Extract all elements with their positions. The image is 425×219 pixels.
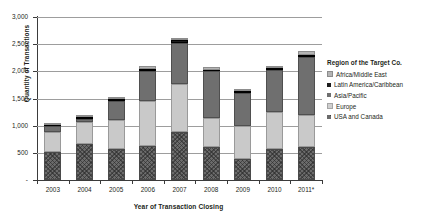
x-tick-mark — [290, 180, 291, 184]
stacked-bar-chart: Quantity of Transactions -5001,0001,5002… — [0, 0, 425, 219]
bar-2007 — [171, 17, 188, 180]
bar-2010 — [266, 17, 283, 180]
bar-2008 — [203, 17, 220, 180]
x-tick-mark — [132, 180, 133, 184]
y-tick-label: 1,000 — [0, 122, 28, 129]
x-tick-mark — [259, 180, 260, 184]
bar-segment — [76, 119, 93, 123]
x-tick-mark — [37, 180, 38, 184]
bar-segment — [108, 97, 125, 99]
bar-segment — [298, 55, 315, 57]
x-tick-mark — [322, 180, 323, 184]
legend-item-label: Latin America/Caribbean — [334, 81, 403, 88]
bar-2004 — [76, 17, 93, 180]
bar-segment — [76, 144, 93, 180]
legend-swatch-icon — [327, 115, 331, 119]
plot-area — [37, 17, 322, 180]
bar-segment — [139, 71, 156, 101]
bar-2003 — [44, 17, 61, 180]
legend-swatch-icon — [327, 103, 333, 109]
bar-2009 — [234, 17, 251, 180]
bar-segment — [44, 152, 61, 180]
bar-segment — [76, 122, 93, 144]
bar-segment — [139, 101, 156, 146]
legend-swatch-icon — [327, 83, 331, 87]
y-tick-label: 500 — [0, 149, 28, 156]
bar-segment — [203, 67, 220, 70]
chart-legend: Region of the Target Co. Africa/Middle E… — [327, 59, 425, 124]
bar-segment — [298, 51, 315, 54]
bar-segment — [266, 149, 283, 181]
bar-segment — [139, 146, 156, 180]
legend-item-label: Europe — [336, 103, 356, 110]
bar-segment — [234, 93, 251, 126]
legend-item-label: Africa/Middle East — [336, 71, 387, 78]
bar-segment — [234, 159, 251, 180]
bar-segment — [203, 147, 220, 180]
bar-segment — [171, 132, 188, 180]
legend-item[interactable]: Africa/Middle East — [327, 71, 425, 78]
x-tick-mark — [164, 180, 165, 184]
bar-segment — [203, 118, 220, 147]
x-tick-mark — [195, 180, 196, 184]
x-tick-label: 2011* — [286, 186, 326, 193]
bar-segment — [139, 66, 156, 68]
x-tick-mark — [227, 180, 228, 184]
legend-item-label: USA and Canada — [334, 113, 383, 120]
legend-item[interactable]: Europe — [327, 103, 425, 110]
bar-segment — [171, 38, 188, 40]
bar-segment — [108, 149, 125, 180]
bar-segment — [44, 123, 61, 125]
legend-title: Region of the Target Co. — [327, 59, 425, 66]
y-tick-label: 1,500 — [0, 95, 28, 102]
bar-segment — [266, 68, 283, 70]
bar-segment — [298, 147, 315, 180]
legend-item[interactable]: Latin America/Caribbean — [327, 81, 425, 88]
bar-segment — [139, 69, 156, 71]
bar-segment — [108, 120, 125, 149]
bar-segment — [266, 70, 283, 111]
y-tick-label: 2,500 — [0, 40, 28, 47]
y-tick-label: - — [0, 176, 28, 183]
bar-segment — [234, 126, 251, 160]
bar-segment — [298, 115, 315, 147]
bar-segment — [203, 71, 220, 118]
bar-segment — [298, 57, 315, 116]
bar-segment — [76, 115, 93, 117]
bar-2011 — [298, 17, 315, 180]
bar-segment — [44, 126, 61, 132]
legend-item-label: Asia/Pacific — [334, 92, 367, 99]
x-axis-title: Year of Transaction Closing — [36, 203, 321, 210]
x-tick-mark — [69, 180, 70, 184]
x-tick-mark — [100, 180, 101, 184]
legend-item[interactable]: Asia/Pacific — [327, 92, 425, 99]
y-tick-label: 3,000 — [0, 13, 28, 20]
bar-segment — [171, 43, 188, 84]
bar-2005 — [108, 17, 125, 180]
y-tick-label: 2,000 — [0, 67, 28, 74]
bar-segment — [44, 132, 61, 152]
bar-segment — [266, 66, 283, 68]
bar-segment — [171, 40, 188, 43]
legend-item[interactable]: USA and Canada — [327, 113, 425, 120]
bar-segment — [171, 84, 188, 132]
bar-segment — [108, 99, 125, 101]
legend-swatch-icon — [327, 71, 333, 77]
x-axis-line — [37, 180, 323, 181]
bar-segment — [234, 89, 251, 91]
bar-segment — [108, 101, 125, 120]
bar-2006 — [139, 17, 156, 180]
legend-swatch-icon — [327, 93, 331, 97]
bar-segment — [266, 112, 283, 149]
